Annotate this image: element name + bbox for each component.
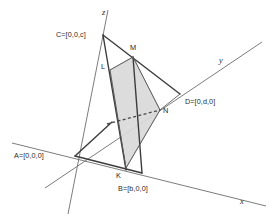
vertex-label-D: D=[0,d,0] xyxy=(185,98,215,105)
point-label-K: K xyxy=(116,172,121,179)
geometry-figure: z y x A=[0,0,0] B=[b,0,0] C=[0,0,c] D=[0… xyxy=(0,0,273,224)
y-axis-label: y xyxy=(219,57,223,65)
x-axis-line xyxy=(12,143,266,206)
vertex-label-C: C=[0,0,c] xyxy=(56,31,86,38)
x-axis-label: x xyxy=(240,198,244,206)
z-axis-label: z xyxy=(102,9,105,17)
vertex-label-A: A=[0,0,0] xyxy=(14,152,44,159)
edge-A-N xyxy=(75,122,112,156)
point-label-L: L xyxy=(101,63,105,70)
point-label-M: M xyxy=(130,44,136,51)
point-label-N: N xyxy=(163,107,168,114)
z-axis-line xyxy=(68,10,108,214)
vertex-label-B: B=[b,0,0] xyxy=(118,185,148,192)
